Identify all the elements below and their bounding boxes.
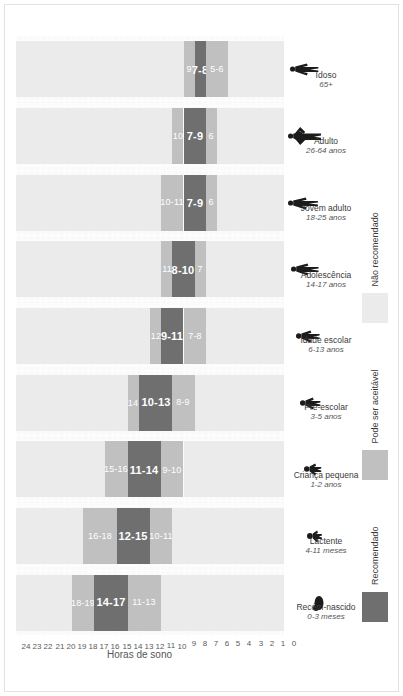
bar-segment-not-high — [16, 241, 161, 297]
plot-area: 18-1914-1711-1316-1812-1510-1115-1611-14… — [16, 36, 284, 636]
category-age-range: 3-5 anos — [304, 413, 347, 423]
category-label-group: Adolescência14-17 anos — [300, 269, 351, 289]
bar-segment-not-high — [16, 175, 161, 231]
category-axis-item[interactable]: Recém-nascido0-3 meses — [284, 569, 358, 636]
category-name: Criança pequena — [293, 469, 358, 479]
bar-segment-label: 10 — [172, 131, 182, 141]
bar-segment-recommended: 14-17 — [94, 575, 128, 631]
bar-segment-may-low: 5-6 — [205, 41, 227, 97]
legend-item-may-be-acceptable[interactable]: Pode ser aceitável — [358, 369, 392, 480]
bar-segment-may-high: 14 — [127, 375, 138, 431]
category-axis-item[interactable]: Jovem adulto18-25 anos — [284, 169, 358, 236]
bar-column[interactable]: 1410-138-9 — [16, 369, 284, 436]
bar-segment-recommended: 12-15 — [116, 508, 150, 564]
bar-segment-label: 8-10 — [172, 263, 195, 275]
bar-column[interactable]: 15-1611-149-10 — [16, 436, 284, 503]
category-label-group: Pré-escolar3-5 anos — [304, 403, 347, 423]
bar-column[interactable]: 129-117-8 — [16, 303, 284, 370]
bar-segment-not-low — [228, 41, 284, 97]
bar-segment-not-low — [194, 375, 283, 431]
bar-segment-not-high — [16, 575, 72, 631]
bar-segment-label: 9 — [186, 64, 191, 74]
bar-segment-may-low: 11-13 — [127, 575, 161, 631]
category-name: Recém-nascido — [296, 603, 355, 613]
category-age-range: 14-17 anos — [300, 279, 351, 289]
category-name: Jovem adulto — [300, 203, 351, 213]
bar-segment-recommended: 11-14 — [127, 441, 161, 497]
rotated-chart-stage: Horas de sono 01234567891011121314151617… — [6, 14, 398, 682]
bar-segment-label: 7-9 — [186, 130, 203, 142]
category-age-range: 1-2 anos — [293, 479, 358, 489]
bar-segment-label: 7-8 — [187, 331, 201, 341]
bar-segment-label: 6 — [208, 131, 213, 141]
bar-segment-not-low — [205, 241, 283, 297]
category-name: Pré-escolar — [304, 403, 347, 413]
bar-segment-label: 6 — [208, 198, 213, 208]
category-label-group: Idade escolar6-13 anos — [300, 336, 351, 356]
category-axis-item[interactable]: Pré-escolar3-5 anos — [284, 369, 358, 436]
bar-segment-label: 10-13 — [141, 397, 170, 409]
bar-segment-label: 10-11 — [149, 531, 172, 541]
bar-segment-may-low: 10-11 — [150, 508, 172, 564]
category-axis-item[interactable]: Adolescência14-17 anos — [284, 236, 358, 303]
bar-segment-recommended: 8-10 — [172, 241, 194, 297]
bar-segment-recommended: 9-11 — [161, 308, 183, 364]
bar-segment-label: 14 — [128, 398, 138, 408]
bar-segment-label: 9-11 — [161, 330, 183, 342]
bar-segment-label: 11-13 — [132, 598, 155, 608]
bar-segment-label: 7-9 — [186, 197, 203, 209]
category-axis-item[interactable]: Idade escolar6-13 anos — [284, 303, 358, 370]
category-age-range: 18-25 anos — [300, 213, 351, 223]
bar-segment-label: 11-14 — [130, 463, 159, 475]
bar-column[interactable]: 10-117-96 — [16, 169, 284, 236]
bar-segment-not-low — [217, 108, 284, 164]
bar-segment-may-high: 11 — [161, 241, 172, 297]
bar-segment-not-low — [217, 175, 284, 231]
legend-item-not-recommended[interactable]: Não recomendado — [358, 212, 392, 323]
bar-segment-may-low: 6 — [205, 108, 216, 164]
category-label-group: Jovem adulto18-25 anos — [300, 203, 351, 223]
legend-item-recommended[interactable]: Recomendado — [358, 526, 392, 622]
category-age-range: 0-3 meses — [296, 613, 355, 623]
category-label-group: Lactente4-11 meses — [305, 536, 346, 556]
bar-segment-may-high: 10 — [172, 108, 183, 164]
bar-segment-may-high: 15-16 — [105, 441, 127, 497]
bar-segment-not-low — [161, 575, 284, 631]
bar-segment-may-high: 12 — [150, 308, 161, 364]
bar-segment-label: 12 — [150, 331, 160, 341]
bar-segment-not-low — [205, 308, 283, 364]
legend-swatch — [362, 450, 388, 480]
category-axis-item[interactable]: Adulto26-64 anos — [284, 103, 358, 170]
category-axis-item[interactable]: Lactente4-11 meses — [284, 503, 358, 570]
y-axis: Horas de sono 01234567891011121314151617… — [16, 638, 284, 682]
category-label-group: Idoso65+ — [315, 69, 336, 89]
bar-segment-label: 9-10 — [162, 464, 181, 474]
category-label-group: Adulto26-64 anos — [305, 136, 345, 156]
bar-segment-label: 15-16 — [104, 464, 128, 474]
bar-segment-recommended: 7-9 — [183, 175, 205, 231]
bar-column[interactable]: 97-85-6 — [16, 36, 284, 103]
category-label-group: Recém-nascido0-3 meses — [296, 603, 355, 623]
bar-column[interactable]: 107-96 — [16, 103, 284, 170]
bar-segment-not-low — [172, 508, 284, 564]
category-name: Adolescência — [300, 269, 351, 279]
stacked-bar-series: 18-1914-1711-1316-1812-1510-1115-1611-14… — [16, 36, 284, 636]
category-axis-item[interactable]: Idoso65+ — [284, 36, 358, 103]
category-name: Idade escolar — [300, 336, 351, 346]
bar-segment-not-high — [16, 41, 184, 97]
bar-segment-not-high — [16, 108, 172, 164]
bar-segment-not-high — [16, 441, 105, 497]
bar-segment-label: 18-19 — [70, 598, 94, 608]
category-axis-item[interactable]: Criança pequena1-2 anos — [284, 436, 358, 503]
bar-segment-label: 10-11 — [160, 198, 183, 208]
figure-page: Horas de sono 01234567891011121314151617… — [0, 0, 403, 696]
bar-column[interactable]: 18-1914-1711-13 — [16, 569, 284, 636]
bar-segment-label: 14-17 — [96, 597, 125, 609]
legend-label: Não recomendado — [370, 212, 380, 286]
legend-swatch — [362, 293, 388, 323]
bar-column[interactable]: 16-1812-1510-11 — [16, 503, 284, 570]
bar-segment-not-low — [183, 441, 284, 497]
category-name: Adulto — [305, 136, 345, 146]
bar-column[interactable]: 118-107 — [16, 236, 284, 303]
bar-segment-may-low: 7-8 — [183, 308, 205, 364]
